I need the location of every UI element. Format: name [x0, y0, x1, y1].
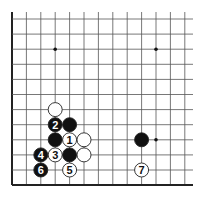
- black-stone: 4: [34, 148, 48, 162]
- move-number-label: 4: [38, 149, 45, 161]
- star-point: [53, 47, 57, 51]
- black-stone: [63, 118, 77, 132]
- white-stone: [77, 148, 91, 162]
- white-stone: 7: [135, 163, 149, 177]
- move-number-label: 2: [52, 119, 58, 131]
- move-number-label: 1: [67, 134, 73, 146]
- black-stone: [63, 148, 77, 162]
- black-stone: 6: [34, 163, 48, 177]
- white-stone: [48, 103, 62, 117]
- black-stone: [135, 133, 149, 147]
- star-point: [154, 47, 158, 51]
- white-stone: 1: [63, 133, 77, 147]
- move-number-label: 6: [38, 164, 44, 176]
- move-number-label: 7: [139, 164, 145, 176]
- white-stone: [77, 133, 91, 147]
- black-stone: 2: [48, 118, 62, 132]
- go-board: 2143657: [0, 0, 204, 202]
- move-number-label: 5: [67, 164, 73, 176]
- black-stone: [48, 133, 62, 147]
- star-point: [154, 138, 158, 142]
- white-stone: 5: [63, 163, 77, 177]
- white-stone: 3: [48, 148, 62, 162]
- move-number-label: 3: [52, 149, 58, 161]
